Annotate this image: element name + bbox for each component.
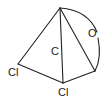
carbon-label: C [51, 45, 59, 57]
bond-apex-right [60, 8, 95, 71]
bond-apex-bottom [60, 8, 63, 83]
chlorine-bottom-label: Cl [58, 86, 68, 98]
bond-bottom-right [63, 71, 95, 83]
bond-left-bottom [18, 64, 63, 83]
oxygen-label: O [88, 27, 97, 39]
structure-diagram: C O Cl Cl [0, 0, 106, 102]
arc-lower [95, 38, 99, 71]
chlorine-left-label: Cl [8, 66, 18, 78]
